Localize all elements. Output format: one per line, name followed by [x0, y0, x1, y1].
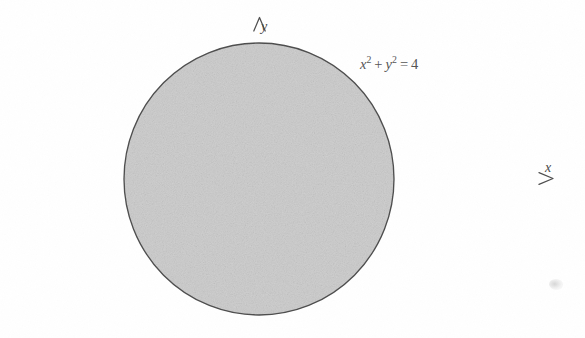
circle-equation-annotation: x2+y2=4: [360, 57, 418, 72]
equation-equals-operator: =: [397, 56, 411, 72]
math-figure-canvas: y x x2+y2=4: [0, 0, 585, 338]
equation-plus-operator: +: [371, 56, 385, 72]
figure-svg: [0, 0, 585, 338]
y-axis-label: y: [261, 20, 267, 34]
x-axis-label: x: [545, 161, 551, 175]
equation-value: 4: [411, 56, 418, 72]
